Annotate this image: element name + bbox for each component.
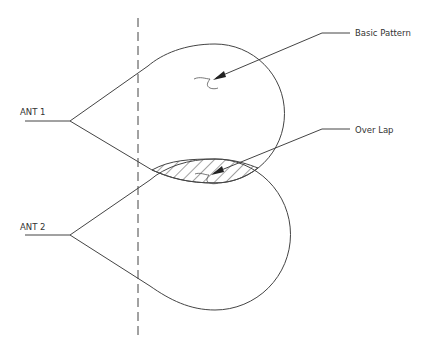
basic-pattern-label: Basic Pattern: [355, 28, 411, 38]
ant2-lobe: [70, 159, 291, 310]
antenna-pattern-diagram: ANT 1 ANT 2 Basic Pattern Over Lap: [0, 0, 430, 353]
basic-pattern-arrowhead-icon: [213, 71, 226, 80]
overlap-label: Over Lap: [355, 125, 394, 135]
ant1-pattern: ANT 1: [20, 44, 284, 183]
ant2-pattern: ANT 2: [20, 159, 291, 310]
ant2-label: ANT 2: [20, 222, 45, 232]
ant1-label: ANT 1: [20, 107, 45, 117]
basic-pattern-leader-line: [216, 33, 350, 78]
overlap-region: [152, 159, 258, 183]
callout-basic-pattern: Basic Pattern: [213, 28, 411, 80]
